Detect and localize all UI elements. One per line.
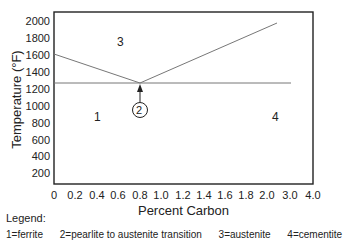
- x-tick: 0.6: [110, 190, 125, 201]
- x-tick: 0.4: [89, 190, 104, 201]
- y-tick: 1000: [26, 101, 50, 112]
- x-tick: 1.0: [153, 190, 168, 201]
- region-label-cementite: 4: [272, 110, 279, 124]
- x-tick: 1.4: [196, 190, 211, 201]
- y-tick: 1600: [26, 50, 50, 61]
- y-tick: 600: [32, 135, 50, 146]
- y-tick: 1200: [26, 84, 50, 95]
- y-tick: 800: [32, 118, 50, 129]
- x-tick: 3.0: [282, 190, 297, 201]
- a3-line: [54, 54, 140, 83]
- x-tick: 0: [51, 190, 57, 201]
- y-tick: 1800: [26, 33, 50, 44]
- x-tick: 1.6: [217, 190, 232, 201]
- x-tick: 2.0: [259, 190, 274, 201]
- acm-line: [140, 23, 277, 83]
- x-axis-label: Percent Carbon: [54, 203, 313, 218]
- x-tick: 1.8: [238, 190, 253, 201]
- legend-item: 1=ferrite: [6, 229, 43, 240]
- y-tick: 1400: [26, 67, 50, 78]
- region-label-austenite: 3: [117, 35, 124, 49]
- region-label-ferrite: 1: [94, 110, 101, 124]
- legend-title: Legend:: [6, 212, 46, 224]
- region-label-transition: 2: [136, 104, 142, 116]
- legend-item: 2=pearlite to austenite transition: [60, 229, 202, 240]
- y-tick: 200: [32, 168, 50, 179]
- x-tick: 1.2: [175, 190, 190, 201]
- legend-item: 4=cementite: [287, 229, 342, 240]
- legend: 1=ferrite 2=pearlite to austenite transi…: [6, 229, 347, 240]
- y-tick: 400: [32, 151, 50, 162]
- x-tick: 4.0: [305, 190, 320, 201]
- plot-frame: [54, 12, 313, 184]
- y-axis-label: Temperature (°F): [9, 40, 24, 160]
- arrow-up-icon: [137, 84, 143, 92]
- x-tick: 0.8: [132, 190, 147, 201]
- legend-item: 3=austenite: [219, 229, 271, 240]
- y-tick: 2000: [26, 16, 50, 27]
- x-tick: 0.2: [67, 190, 82, 201]
